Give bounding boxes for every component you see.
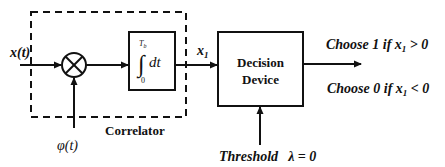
- integrator-lower-limit: 0: [141, 76, 145, 85]
- threshold-label: Thresholdλ = 0: [219, 149, 316, 164]
- input-signal-label: x(t): [9, 45, 30, 61]
- decision-device-label-line1: Decision: [237, 55, 285, 70]
- integral-sign-icon: ∫: [136, 51, 146, 79]
- correlator-output-label: x1: [196, 43, 209, 60]
- correlator-label: Correlator: [105, 123, 165, 138]
- decision-rule-choose-0: Choose 0 if x1 < 0: [327, 81, 429, 98]
- correlator-receiver-diagram: x(t) φ(t) Tb ∫ dt 0 Correlator x1 Decisi…: [0, 0, 445, 167]
- decision-rule-choose-1: Choose 1 if x1 > 0: [326, 37, 428, 54]
- reference-signal-label: φ(t): [57, 138, 78, 154]
- integrator-differential: dt: [149, 54, 162, 70]
- decision-device-label-line2: Device: [242, 72, 279, 87]
- multiplier-icon: [62, 53, 86, 77]
